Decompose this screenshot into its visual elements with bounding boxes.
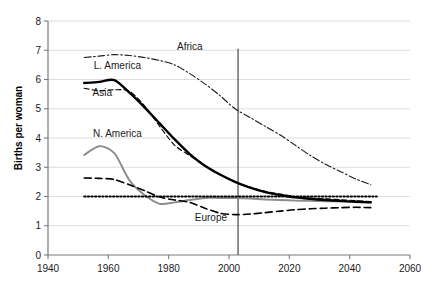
y-tick-label-8: 8 — [35, 16, 41, 27]
x-tick-label-1980: 1980 — [158, 263, 181, 274]
x-tick-label-1940: 1940 — [37, 263, 60, 274]
y-tick-label-2: 2 — [35, 191, 41, 202]
y-tick-label-5: 5 — [35, 103, 41, 114]
fertility-line-chart: 0123456781940196019802000202020402060Bir… — [0, 0, 425, 292]
y-tick-label-4: 4 — [35, 133, 41, 144]
y-tick-label-3: 3 — [35, 162, 41, 173]
x-tick-label-1960: 1960 — [97, 263, 120, 274]
series-line-africa — [84, 55, 371, 185]
y-tick-label-7: 7 — [35, 45, 41, 56]
gridlines — [48, 21, 410, 226]
x-axis-ticks: 1940196019802000202020402060 — [37, 255, 422, 274]
x-tick-label-2060: 2060 — [399, 263, 422, 274]
series-line-n-america — [84, 146, 371, 204]
series-label-n-america: N. America — [93, 128, 142, 139]
y-tick-label-0: 0 — [35, 250, 41, 261]
y-axis-ticks: 012345678 — [35, 16, 48, 261]
series-label-africa: Africa — [177, 41, 203, 52]
series-label-europe: Europe — [195, 212, 228, 223]
y-tick-label-1: 1 — [35, 220, 41, 231]
x-tick-label-2020: 2020 — [278, 263, 301, 274]
x-tick-label-2000: 2000 — [218, 263, 241, 274]
x-tick-label-2040: 2040 — [339, 263, 362, 274]
series-label-l-america: L. America — [94, 60, 142, 71]
y-tick-label-6: 6 — [35, 74, 41, 85]
series-label-asia: Asia — [93, 87, 113, 98]
chart-canvas: 0123456781940196019802000202020402060Bir… — [0, 0, 425, 292]
y-axis-title: Births per woman — [13, 86, 24, 170]
